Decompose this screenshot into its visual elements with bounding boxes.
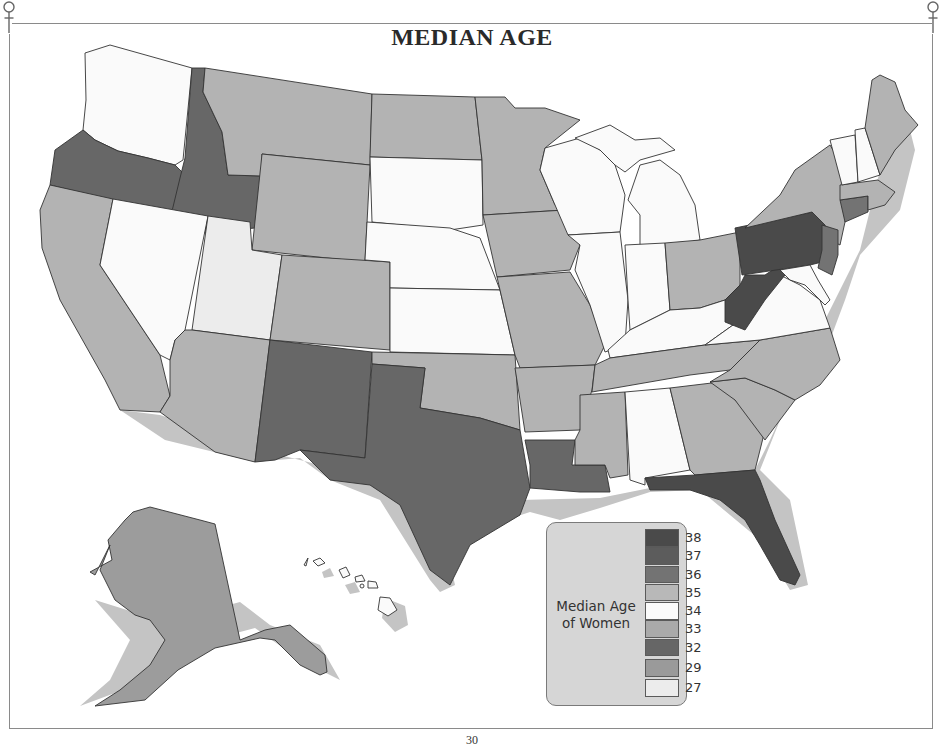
legend-swatch [645,659,679,677]
map-legend: Median Age of Women 38 37 36 35 34 33 [546,522,687,706]
legend-swatch [645,620,679,638]
state-mississippi [575,392,628,478]
legend-swatch [645,679,679,697]
legend-swatch [645,566,679,584]
state-colorado [270,255,390,350]
legend-value: 27 [685,679,702,697]
legend-swatch [645,547,679,565]
legend-value: 32 [685,639,702,657]
legend-value: 35 [685,584,702,602]
legend-value: 33 [685,620,702,638]
legend-swatch [645,529,679,547]
state-new-mexico [255,340,372,462]
state-pennsylvania [735,212,830,275]
state-connecticut [840,196,868,222]
legend-value: 29 [685,659,702,677]
state-south-dakota [370,157,483,230]
legend-value: 37 [685,547,702,565]
legend-value: 36 [685,566,702,584]
state-kansas [390,288,515,355]
legend-value: 34 [685,602,702,620]
legend-title-line1: Median Age [549,598,643,615]
us-choropleth-map: .st { stroke: #333; stroke-width: 0.9; s… [0,0,944,747]
legend-title: Median Age of Women [549,598,643,632]
legend-swatch [645,584,679,602]
legend-title-line2: of Women [549,615,643,632]
legend-swatch [645,602,679,620]
legend-swatch [645,639,679,657]
page-number: 30 [0,733,944,747]
state-north-dakota [370,94,482,160]
legend-value: 38 [685,529,702,547]
state-michigan-lower [628,160,700,248]
state-wyoming [252,154,370,262]
